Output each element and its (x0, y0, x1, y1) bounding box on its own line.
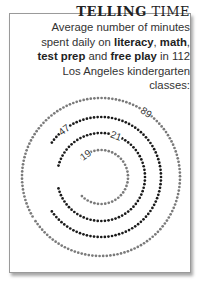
value-label: 21 (109, 129, 124, 143)
arc-literacy: 89 (21, 97, 182, 258)
arc-test-prep: 21 (57, 129, 146, 223)
value-label: 19 (78, 147, 94, 163)
radial-dot-chart: 89472119 (0, 0, 198, 283)
value-label: 89 (139, 105, 155, 121)
arc-free-play: 19 (78, 147, 129, 205)
